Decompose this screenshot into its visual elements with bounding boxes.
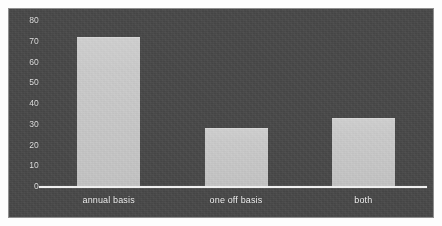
y-axis-tick-labels: 80706050403020100	[17, 9, 39, 218]
y-axis-tick-label: 50	[29, 78, 39, 87]
x-axis-baseline	[39, 186, 427, 188]
x-axis-category-label: both	[354, 196, 372, 205]
bar	[205, 128, 268, 186]
bar	[332, 118, 395, 186]
y-axis-tick-label: 80	[29, 16, 39, 25]
y-axis-tick-label: 70	[29, 37, 39, 46]
bars-container	[45, 20, 427, 186]
x-axis-category-label: annual basis	[82, 196, 134, 205]
bar-chart-figure: 80706050403020100 annual basisone off ba…	[0, 0, 442, 226]
y-axis-tick-label: 40	[29, 99, 39, 108]
x-axis-category-label: one off basis	[210, 196, 263, 205]
y-axis-tick-label: 10	[29, 161, 39, 170]
bar	[77, 37, 140, 186]
x-axis-category-labels: annual basisone off basisboth	[45, 193, 427, 213]
y-axis-tick-label: 30	[29, 120, 39, 129]
y-axis-tick-label: 60	[29, 57, 39, 66]
y-axis-tick-label: 20	[29, 140, 39, 149]
chart-plot-panel: 80706050403020100 annual basisone off ba…	[8, 8, 434, 218]
